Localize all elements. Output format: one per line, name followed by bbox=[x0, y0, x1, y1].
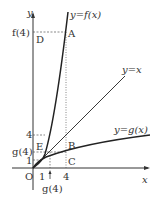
line-y-equals-x bbox=[33, 76, 125, 168]
label-f: y=f(x) bbox=[69, 9, 101, 20]
xtick-1: 1 bbox=[39, 171, 45, 182]
ytick-1: 1 bbox=[26, 155, 32, 166]
function-diagram: y x O y=f(x) y=x y=g(x) A D E B C f(4) 4… bbox=[0, 0, 155, 198]
point-D: D bbox=[36, 34, 44, 45]
x-axis-arrow-icon bbox=[144, 166, 150, 170]
point-A: A bbox=[67, 28, 76, 39]
curve-g bbox=[33, 135, 150, 168]
origin-label: O bbox=[25, 171, 33, 182]
label-identity: y=x bbox=[121, 64, 142, 75]
xtick-4: 4 bbox=[63, 171, 69, 182]
point-E: E bbox=[36, 141, 43, 152]
point-B: B bbox=[68, 140, 75, 151]
xtick-g4: g(4) bbox=[42, 183, 63, 194]
ytick-f4: f(4) bbox=[12, 27, 30, 38]
label-g: y=g(x) bbox=[113, 124, 148, 135]
y-axis-label: y bbox=[26, 7, 33, 18]
ytick-4: 4 bbox=[26, 129, 32, 140]
x-axis-label: x bbox=[142, 174, 148, 185]
point-C: C bbox=[68, 156, 76, 167]
